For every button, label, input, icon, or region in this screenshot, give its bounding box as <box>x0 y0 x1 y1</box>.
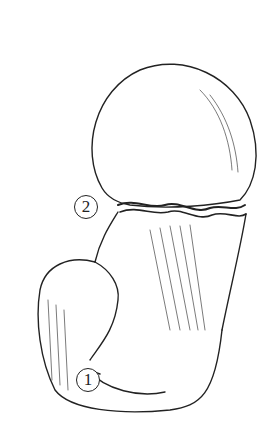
label-2-text: 2 <box>82 197 91 217</box>
label-2: 2 <box>74 195 98 219</box>
label-1: 1 <box>76 368 100 392</box>
femur-illustration <box>0 0 279 437</box>
greater-trochanter <box>38 260 222 412</box>
label-1-text: 1 <box>84 370 93 390</box>
femoral-neck <box>95 212 118 262</box>
